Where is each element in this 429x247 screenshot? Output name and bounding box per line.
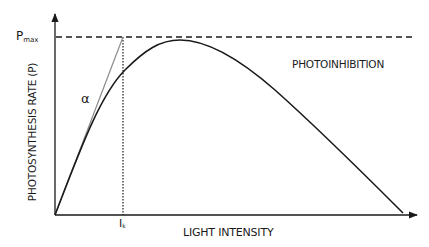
y-axis-label: PHOTOSYNTHESIS RATE (P) <box>26 63 38 201</box>
pi-curve-diagram <box>0 0 429 247</box>
x-axis-label: LIGHT INTENSITY <box>183 226 273 239</box>
alpha-label: α <box>81 91 90 106</box>
pmax-label-sub: max <box>23 36 38 44</box>
photoinhibition-label: PHOTOINHIBITION <box>292 58 384 70</box>
ik-label-sub: k <box>122 222 125 229</box>
ik-label: Ik <box>119 217 126 230</box>
pmax-label: Pmax <box>16 29 39 44</box>
